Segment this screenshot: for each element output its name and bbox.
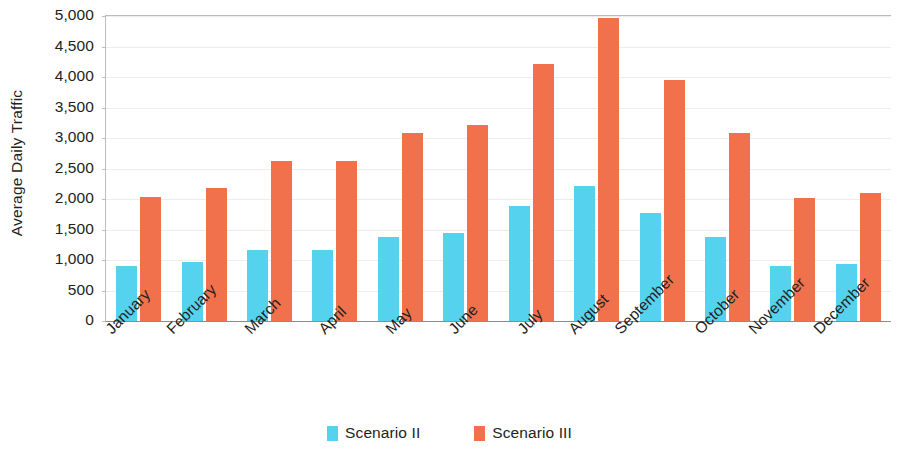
bar[interactable] <box>336 161 357 321</box>
bar-group <box>443 16 488 321</box>
y-axis-tick-label: 2,000 <box>55 189 94 207</box>
y-axis-tick-labels: 5,0004,5004,0003,5003,0002,5002,0001,500… <box>34 15 100 320</box>
bar[interactable] <box>860 193 881 321</box>
y-axis-title: Average Daily Traffic <box>0 0 34 325</box>
bar-group <box>182 16 227 321</box>
y-axis-title-text: Average Daily Traffic <box>8 89 26 236</box>
bar[interactable] <box>794 198 815 321</box>
plot-area <box>105 15 891 322</box>
y-axis-tick-label: 1,500 <box>55 220 94 238</box>
bar[interactable] <box>378 237 399 321</box>
legend-swatch-icon <box>474 426 485 441</box>
legend-item[interactable]: Scenario III <box>474 424 572 442</box>
bar-group <box>574 16 619 321</box>
legend-swatch-icon <box>327 426 338 441</box>
bar[interactable] <box>598 18 619 321</box>
y-axis-tick-label: 5,000 <box>55 6 94 24</box>
y-axis-tick-label: 4,500 <box>55 37 94 55</box>
bar-group <box>705 16 750 321</box>
legend-item[interactable]: Scenario II <box>327 424 420 442</box>
y-axis-tick-label: 3,500 <box>55 98 94 116</box>
y-axis-tick-label: 500 <box>68 281 94 299</box>
y-axis-tick-label: 2,500 <box>55 159 94 177</box>
x-axis-tick-labels: JanuaryFebruaryMarchAprilMayJuneJulyAugu… <box>105 321 890 421</box>
legend-label: Scenario III <box>492 424 572 442</box>
bar[interactable] <box>467 125 488 321</box>
bars-layer <box>106 16 891 321</box>
bar[interactable] <box>533 64 554 321</box>
legend-label: Scenario II <box>345 424 420 442</box>
y-axis-tick-label: 3,000 <box>55 128 94 146</box>
bar-group <box>116 16 161 321</box>
bar[interactable] <box>509 206 530 321</box>
bar-group <box>378 16 423 321</box>
y-axis-tick-label: 0 <box>85 311 94 329</box>
y-axis-tick-label: 1,000 <box>55 250 94 268</box>
bar-chart: Average Daily Traffic 5,0004,5004,0003,5… <box>0 0 899 451</box>
bar-group <box>247 16 292 321</box>
y-axis-tick-label: 4,000 <box>55 67 94 85</box>
bar[interactable] <box>402 133 423 321</box>
chart-legend: Scenario IIScenario III <box>0 424 899 442</box>
bar-group <box>312 16 357 321</box>
bar-group <box>509 16 554 321</box>
